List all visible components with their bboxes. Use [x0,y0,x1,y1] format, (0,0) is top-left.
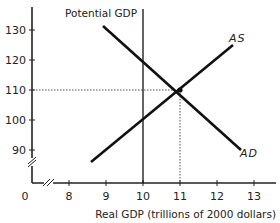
origin-label: 0 [22,190,29,203]
x-tick-9: 9 [103,190,110,203]
potential-gdp-label: Potential GDP [65,7,137,19]
y-tick-120: 120 [5,54,26,67]
equilibrium-point [177,87,182,92]
x-axis-break-icon [43,179,54,187]
ad-curve [103,26,241,150]
y-tick-100: 100 [5,114,26,127]
y-tick-110: 110 [5,84,26,97]
y-tick-130: 130 [5,24,26,37]
y-tick-labels: 130 120 110 100 90 [5,24,26,157]
x-tick-11: 11 [173,190,187,203]
x-tick-8: 8 [66,190,73,203]
x-tick-13: 13 [247,190,261,203]
y-tick-90: 90 [12,144,26,157]
x-axis-title: Real GDP (trillions of 2000 dollars) [95,208,276,220]
y-axis-break-icon [28,157,37,167]
x-tick-labels: 0 8 9 10 11 12 13 [22,190,262,203]
x-tick-12: 12 [210,190,224,203]
as-curve [91,45,233,162]
ad-label: AD [239,147,258,160]
as-label: AS [228,32,246,45]
x-tick-10: 10 [136,190,150,203]
ad-as-chart: 130 120 110 100 90 0 8 9 10 11 12 13 Rea… [0,0,280,223]
